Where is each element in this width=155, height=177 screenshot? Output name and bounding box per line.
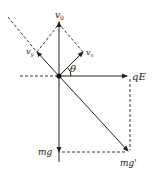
vy-to-v0-dashed	[37, 24, 59, 52]
vy-vector	[37, 52, 59, 76]
vx-label: vx	[86, 48, 95, 58]
diagonal-extension-dashed	[8, 17, 36, 51]
v0-label: v0	[55, 10, 64, 21]
vx-to-v0-dashed	[59, 24, 83, 52]
vy-label: vy	[26, 47, 35, 58]
vector-diagram: v0 vy vx θ qE mg mg'	[0, 0, 155, 177]
theta-label: θ	[70, 63, 76, 74]
mg-prime-vector	[59, 76, 128, 151]
mg-label: mg	[38, 147, 53, 157]
qE-label: qE	[132, 71, 146, 82]
origin-point	[56, 73, 61, 78]
mg-prime-label: mg'	[120, 158, 137, 168]
